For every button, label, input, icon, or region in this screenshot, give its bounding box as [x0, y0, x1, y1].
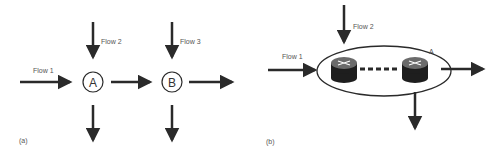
- caption-a: (a): [19, 137, 28, 145]
- router-icon: [402, 57, 428, 83]
- flow2-label-b: Flow 2: [353, 23, 374, 30]
- node-b-label: B: [168, 76, 176, 90]
- router-icon: [331, 57, 357, 83]
- group-label: A: [429, 48, 434, 55]
- flow2-label: Flow 2: [101, 38, 122, 45]
- flow1-label-b: Flow 1: [282, 53, 303, 60]
- panel-b: Flow 1 Flow 2 A (b): [266, 5, 483, 146]
- panel-a: Flow 1 Flow 2 A Flow 3 B (a): [19, 22, 232, 145]
- node-a-label: A: [89, 76, 97, 90]
- caption-b: (b): [266, 138, 275, 146]
- flow-diagram: Flow 1 Flow 2 A Flow 3 B (a) Flow 1 Flow…: [0, 0, 502, 154]
- flow3-label: Flow 3: [180, 38, 201, 45]
- flow1-label: Flow 1: [33, 67, 54, 74]
